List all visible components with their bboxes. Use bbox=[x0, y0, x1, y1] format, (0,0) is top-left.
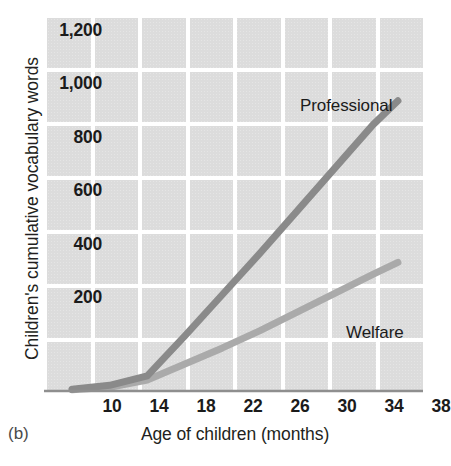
panel-label: (b) bbox=[8, 424, 29, 444]
x-tick-label: 18 bbox=[196, 396, 215, 417]
y-tick-label: 600 bbox=[47, 180, 102, 201]
x-tick-label: 30 bbox=[337, 396, 356, 417]
x-tick-label: 38 bbox=[431, 396, 450, 417]
series-label-welfare: Welfare bbox=[346, 323, 404, 343]
x-axis-tick-labels: 10 14 18 22 26 30 34 38 bbox=[47, 396, 423, 420]
y-tick-label: 400 bbox=[47, 234, 102, 255]
x-tick-label: 26 bbox=[290, 396, 309, 417]
y-axis-title: Children's cumulative vocabulary words bbox=[22, 9, 43, 409]
series-label-professional: Professional bbox=[300, 96, 392, 116]
x-tick-label: 14 bbox=[149, 396, 168, 417]
x-tick-label: 34 bbox=[384, 396, 403, 417]
y-tick-label: 200 bbox=[47, 287, 102, 308]
series-line-professional bbox=[72, 101, 398, 390]
x-tick-label: 10 bbox=[102, 396, 121, 417]
x-tick-label: 22 bbox=[243, 396, 262, 417]
y-tick-label: 1,000 bbox=[47, 73, 102, 94]
x-axis-title: Age of children (months) bbox=[47, 424, 423, 445]
plot-area: Professional Welfare bbox=[47, 18, 423, 392]
y-tick-label: 800 bbox=[47, 127, 102, 148]
y-tick-label: 1,200 bbox=[47, 20, 102, 41]
